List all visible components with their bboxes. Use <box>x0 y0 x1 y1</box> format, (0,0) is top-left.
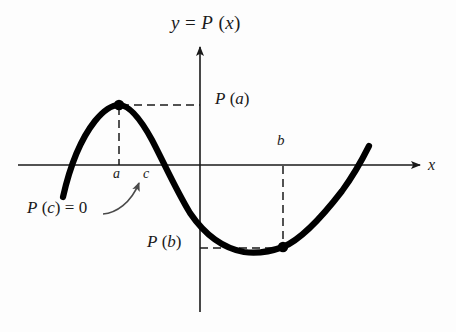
title-x: x <box>225 12 234 33</box>
pb-b: b <box>167 232 176 251</box>
title-P: P <box>201 12 213 33</box>
axis-tick-label-c: c <box>143 166 149 182</box>
pc-equals: = <box>65 198 75 217</box>
label-p-of-a: P (a) <box>215 89 249 109</box>
figure-background <box>0 0 456 332</box>
pc-c: c <box>47 198 55 217</box>
title-y: y <box>171 12 180 33</box>
title-paren-close: ) <box>234 12 241 33</box>
label-p-of-c-equals-zero: P (c) = 0 <box>27 198 87 218</box>
pc-P: P <box>27 198 37 217</box>
pa-P: P <box>215 89 225 108</box>
pb-P: P <box>147 232 157 251</box>
pc-paren-close: ) <box>55 198 61 217</box>
pa-a: a <box>235 89 244 108</box>
graph-title: y = P (x) <box>171 12 241 34</box>
pc-zero: 0 <box>79 198 88 217</box>
title-equals: = <box>185 12 196 33</box>
label-p-of-b: P (b) <box>147 232 181 252</box>
local-minimum-point <box>278 242 288 252</box>
local-maximum-point <box>114 100 124 110</box>
x-axis-label: x <box>428 156 435 174</box>
polynomial-graph-figure <box>0 0 456 332</box>
axis-tick-label-a: a <box>113 166 120 182</box>
pa-paren-close: ) <box>244 89 250 108</box>
pb-paren-close: ) <box>176 232 182 251</box>
axis-tick-label-b: b <box>277 132 285 149</box>
